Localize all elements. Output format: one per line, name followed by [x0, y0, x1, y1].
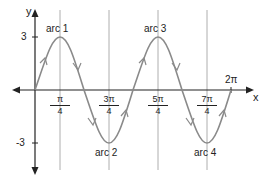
arc-3-label: arc 3: [144, 24, 166, 34]
arrow-left-icon: [12, 87, 20, 94]
arrow-up-icon: [32, 9, 39, 17]
x-tick-3pi-4: 3π 4: [99, 95, 119, 116]
y-tick-neg3: -3: [16, 138, 25, 148]
arc-4-label: arc 4: [194, 148, 216, 158]
x-tick-pi-4: π 4: [50, 95, 70, 116]
x-end-label: 2π: [225, 75, 237, 85]
x-tick-7pi-4: 7π 4: [197, 95, 217, 116]
y-axis: [32, 9, 39, 175]
arrow-down-icon: [32, 167, 39, 175]
graph-canvas: [0, 0, 270, 187]
x-tick-5pi-4: 5π 4: [148, 95, 168, 116]
x-axis-label: x: [253, 92, 259, 103]
y-axis-label: y: [26, 6, 32, 17]
arrow-down-icon: [172, 63, 180, 70]
sine-graph: y x 2π 3 -3 π 4 3π 4 5π 4 7π 4 arc 1 arc…: [0, 0, 270, 187]
y-tick-3: 3: [21, 32, 27, 42]
arc-2-label: arc 2: [95, 148, 117, 158]
arc-1-label: arc 1: [46, 24, 68, 34]
